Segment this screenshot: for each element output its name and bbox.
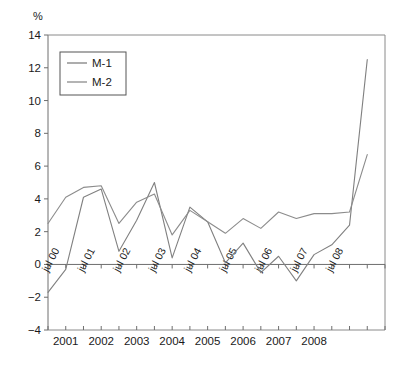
y-tick-label: 10 (28, 95, 41, 107)
x-tick-label: jul 07 (287, 245, 310, 274)
legend-label-m-2: M-2 (92, 76, 112, 88)
y-tick-label: 4 (35, 193, 42, 205)
x-tick-label: jul 03 (145, 245, 168, 274)
y-tick-label: −4 (28, 324, 42, 336)
y-axis-ticks: −4−202468101214 (28, 29, 48, 336)
y-tick-label: 6 (35, 160, 41, 172)
x-axis-ticks: jul 00jul 01jul 02jul 03jul 04jul 05jul … (39, 245, 385, 274)
x-year-label: 2007 (266, 335, 292, 347)
x-axis-year-labels: 20012002200320042005200620072008 (48, 326, 385, 347)
y-axis-unit-label: % (33, 10, 43, 22)
chart-legend: M-1M-2 (60, 52, 126, 95)
x-year-label: 2006 (230, 335, 256, 347)
x-tick-label: jul 04 (181, 245, 204, 274)
x-year-label: 2001 (53, 335, 79, 347)
x-tick-label: jul 01 (74, 245, 97, 274)
y-tick-label: 12 (28, 62, 41, 74)
y-tick-label: −2 (28, 291, 41, 303)
x-year-label: 2002 (88, 335, 114, 347)
line-chart: −4−202468101214 jul 00jul 01jul 02jul 03… (0, 0, 407, 368)
chart-container: −4−202468101214 jul 00jul 01jul 02jul 03… (0, 0, 407, 368)
x-year-label: 2003 (124, 335, 150, 347)
x-tick-label: jul 02 (110, 245, 133, 274)
y-tick-label: 2 (35, 226, 41, 238)
x-year-label: 2008 (301, 335, 327, 347)
y-tick-label: 14 (28, 29, 41, 41)
y-tick-label: 8 (35, 127, 41, 139)
legend-label-m-1: M-1 (92, 57, 112, 69)
x-tick-label: jul 08 (322, 245, 345, 274)
x-tick-label: jul 00 (39, 245, 62, 274)
x-year-label: 2004 (159, 335, 185, 347)
x-year-label: 2005 (195, 335, 221, 347)
